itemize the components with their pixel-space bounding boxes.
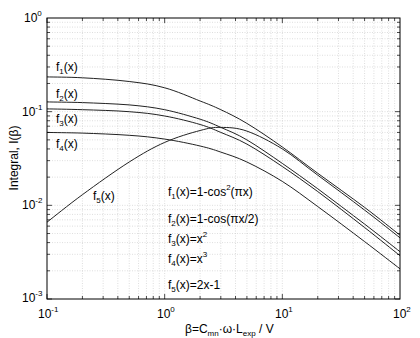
- curve-f2: [47, 102, 400, 252]
- curve-label-f5: f5(x): [93, 189, 115, 205]
- log-log-chart: 100 10-1 10-2 10-3 10-1 100 101 102 Inte…: [0, 0, 420, 338]
- x-tick-1e1: 101: [275, 305, 293, 321]
- curve-label-f4: f4(x): [56, 137, 78, 153]
- curve-label-f2: f2(x): [56, 87, 78, 103]
- formula-f3: f3(x)=x2: [168, 230, 208, 248]
- formula-f5: f5(x)=2x-1: [168, 278, 220, 294]
- curves: [47, 77, 400, 269]
- x-axis-label: β=Cmn·ω·Lexp / V: [185, 322, 274, 338]
- curve-label-f1: f1(x): [56, 60, 78, 76]
- curve-label-f3: f3(x): [56, 112, 78, 128]
- y-tick-1e-2: 10-2: [22, 196, 43, 212]
- x-tick-1e0: 100: [157, 305, 175, 321]
- y-tick-1e-1: 10-1: [22, 103, 43, 119]
- formula-f1: f1(x)=1-cos2(πx): [168, 183, 253, 201]
- y-tick-1e0: 100: [24, 9, 42, 25]
- formula-f2: f2(x)=1-cos(πx/2): [168, 212, 258, 228]
- x-tick-1e2: 102: [393, 305, 411, 321]
- y-tick-1e-3: 10-3: [22, 289, 43, 305]
- plot-frame: [47, 18, 400, 299]
- x-tick-1e-1: 10-1: [38, 305, 59, 321]
- axis-ticks: [47, 18, 400, 299]
- formula-f4: f4(x)=x3: [168, 250, 208, 268]
- y-axis-label: Integral, I(β): [7, 126, 21, 191]
- grid-lines: [47, 18, 400, 299]
